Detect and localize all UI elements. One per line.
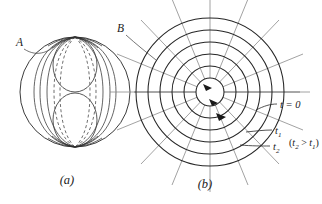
figure-container: A (a)	[0, 0, 322, 204]
panel-b-point-label: B	[117, 22, 124, 34]
leader-t0	[256, 104, 277, 110]
panel-b: B t = 0 t1 t2 (t2 > t1) (b)	[110, 0, 319, 192]
panel-b-caption: (b)	[198, 177, 213, 191]
leader-t2	[240, 145, 270, 146]
panel-a: A (a)	[15, 36, 130, 187]
annotation-t2: t2	[273, 141, 280, 155]
annotation-t1: t1	[275, 125, 281, 139]
figure-eight-upper-lobe	[53, 38, 97, 92]
annotation-t0: t = 0	[280, 99, 301, 110]
figure-svg: A (a)	[0, 0, 322, 204]
figure-eight-lower-lobe	[53, 93, 97, 147]
panel-a-caption: (a)	[60, 173, 75, 187]
annotation-inequality: (t2 > t1)	[289, 137, 319, 151]
panel-a-point-label: A	[15, 36, 24, 48]
